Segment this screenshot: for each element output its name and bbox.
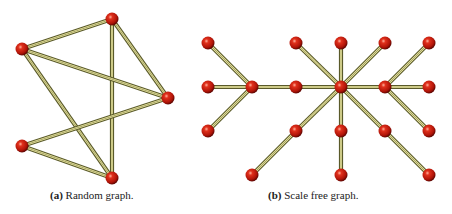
graph-edge-center xyxy=(385,131,429,175)
graph-node xyxy=(290,125,303,138)
graph-node xyxy=(106,13,119,26)
graph-node xyxy=(335,125,348,138)
graph-edge-center xyxy=(22,49,112,178)
graph-edge-center xyxy=(341,87,385,131)
graph-canvas xyxy=(0,0,452,214)
graph-node xyxy=(290,37,303,50)
graph-edge-center xyxy=(22,49,168,98)
graph-edge-center xyxy=(385,43,429,87)
graph-node xyxy=(423,125,436,138)
graph-node xyxy=(423,169,436,182)
caption-label-a: (a) xyxy=(50,189,63,201)
graph-node xyxy=(106,172,119,185)
graph-edge-center xyxy=(208,87,252,131)
graph-node xyxy=(246,169,259,182)
graph-node xyxy=(162,92,175,105)
graph-node xyxy=(16,140,29,153)
graph-node xyxy=(423,81,436,94)
graph-node xyxy=(379,125,392,138)
graph-edge-center xyxy=(208,43,252,87)
graph-node xyxy=(202,81,215,94)
graph-node xyxy=(290,81,303,94)
graph-edge-center xyxy=(22,19,112,49)
graph-node xyxy=(379,81,392,94)
caption-scale-free-graph: (b) Scale free graph. xyxy=(268,189,358,201)
caption-label-b: (b) xyxy=(268,189,281,201)
scale-free-graph-panel xyxy=(202,37,436,182)
graph-edge-center xyxy=(385,87,429,131)
graph-edge-center xyxy=(296,43,341,87)
random-graph-edges xyxy=(22,19,168,178)
caption-text-a: Random graph. xyxy=(66,189,134,201)
graph-node xyxy=(16,43,29,56)
graph-node xyxy=(423,37,436,50)
graph-edge-center xyxy=(252,131,296,175)
graph-node xyxy=(379,37,392,50)
caption-text-b: Scale free graph. xyxy=(284,189,358,201)
graph-node xyxy=(202,125,215,138)
graph-node xyxy=(246,81,259,94)
caption-random-graph: (a) Random graph. xyxy=(50,189,133,201)
graph-edge-center xyxy=(296,87,341,131)
graph-node xyxy=(202,37,215,50)
graph-node xyxy=(335,81,348,94)
graph-edge-center xyxy=(22,98,168,146)
graph-node xyxy=(335,169,348,182)
graph-edge-center xyxy=(112,19,168,98)
random-graph-nodes xyxy=(16,13,175,185)
scale-free-graph-edges xyxy=(208,43,429,175)
graph-node xyxy=(335,37,348,50)
random-graph-panel xyxy=(16,13,175,185)
graph-edge-center xyxy=(341,43,385,87)
